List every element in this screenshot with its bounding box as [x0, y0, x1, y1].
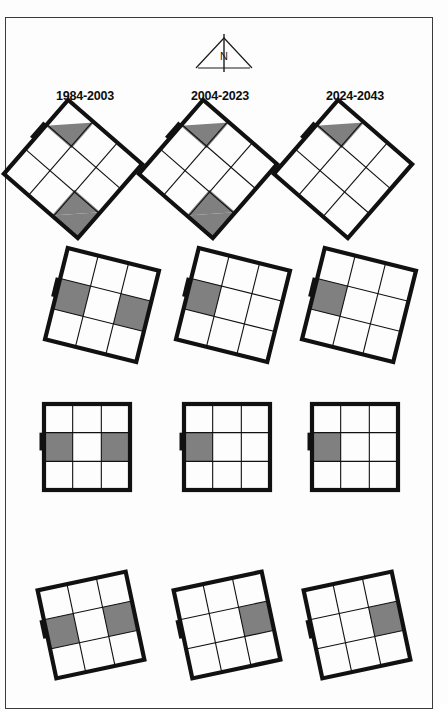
- shaded-triangle: [316, 100, 364, 148]
- grid-line-vertical: [333, 584, 352, 672]
- grid-square-r2-c0: [18, 378, 156, 516]
- shaded-triangle: [181, 100, 229, 148]
- grid-square-r2-c1: [158, 378, 296, 516]
- grid-rotation-group: [169, 572, 280, 680]
- grid-line-horizontal: [316, 630, 404, 649]
- grid-rotation-group: [33, 572, 144, 680]
- grid-line-horizontal: [184, 309, 275, 332]
- grid-square-r0-c2: [268, 94, 418, 244]
- grid-square-r0-c0: [0, 94, 148, 244]
- grid-square-r2-c2: [286, 378, 424, 516]
- grid-square-r1-c2: [286, 232, 432, 378]
- grid-rotation-group: [299, 572, 410, 680]
- grid-line-horizontal: [310, 309, 401, 332]
- grid-outer-boundary: [274, 100, 412, 238]
- shaded-cell-1-0: [44, 433, 73, 462]
- grid-square-r3-c0: [20, 554, 162, 696]
- shaded-cell-1-0: [312, 433, 341, 462]
- grid-square-r0-c1: [133, 94, 283, 244]
- shaded-cell-1-2: [101, 433, 130, 462]
- grid-square-r3-c1: [156, 554, 298, 696]
- grid-left-tab: [308, 433, 313, 451]
- grid-line-vertical: [237, 263, 260, 354]
- grid-left-tab: [180, 433, 185, 451]
- grid-left-tab: [40, 433, 45, 451]
- north-label: N: [186, 50, 262, 62]
- grid-rotation-group: [172, 247, 290, 362]
- shaded-triangle: [46, 100, 94, 148]
- grid-rotation-group: [298, 247, 416, 362]
- grid-square-r1-c0: [29, 232, 175, 378]
- grid-rotation-group: [308, 404, 399, 490]
- grid-line-horizontal: [186, 630, 274, 649]
- grid-line-vertical: [203, 584, 222, 672]
- north-arrow: N: [186, 26, 262, 74]
- grid-square-r1-c1: [160, 232, 306, 378]
- grid-rotation-group: [180, 404, 271, 490]
- grid-rotation-group: [135, 97, 277, 238]
- grid-rotation-group: [40, 404, 131, 490]
- grid-line-vertical: [363, 263, 386, 354]
- grid-square-r3-c2: [286, 554, 428, 696]
- grid-rotation-group: [270, 97, 412, 238]
- grid-rotation-group: [0, 97, 142, 238]
- grid-rotation-group: [41, 247, 159, 362]
- shaded-cell-1-0: [184, 433, 213, 462]
